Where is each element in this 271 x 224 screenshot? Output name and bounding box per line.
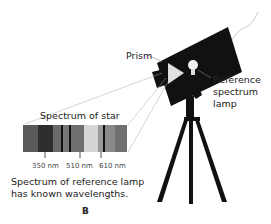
reference-lamp-label-line2: spectrum (213, 86, 258, 97)
spectrum-band (23, 125, 38, 152)
lamp-bulb-icon (188, 60, 198, 70)
caption: Spectrum of reference lamp has known wav… (11, 176, 144, 200)
figure-letter: B (82, 206, 89, 216)
tripod-leg-center (189, 120, 193, 204)
star-spectrum-bar (23, 125, 127, 152)
spectrum-band (105, 125, 115, 152)
caption-line2: has known wavelengths. (11, 188, 144, 200)
spectrum-band (84, 125, 98, 152)
reference-lamp-label-line1: Reference (213, 74, 261, 85)
spectrum-band (115, 125, 127, 152)
caption-line1: Spectrum of reference lamp (11, 176, 144, 188)
wavelength-label-510: 510 nm (66, 162, 93, 170)
prism-label: Prism (126, 50, 152, 61)
tripod-leg-left (157, 120, 188, 202)
wavelength-label-610: 610 nm (99, 162, 126, 170)
reference-lamp-label-line3: lamp (213, 98, 237, 109)
wavelength-label-350: 350 nm (32, 162, 59, 170)
spectrum-of-star-label: Spectrum of star (40, 110, 120, 121)
spectrum-band (53, 125, 61, 152)
spectrum-band (38, 125, 53, 152)
tripod-leg-right (195, 120, 227, 202)
spectrum-band (71, 125, 84, 152)
